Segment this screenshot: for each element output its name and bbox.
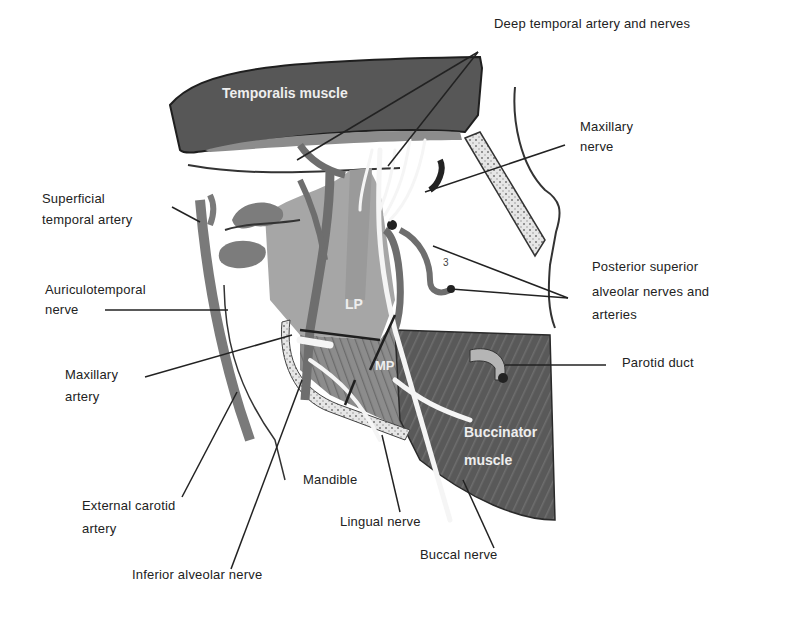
posterior-superior-label-line1: Posterior superior [592,257,698,277]
lateral-pterygoid-label: LP [345,293,363,315]
buccinator-label-line1: Buccinator [464,421,537,443]
anatomy-diagram: Temporalis muscle LP MP Buccinator muscl… [0,0,808,619]
maxillary-nerve-label-line1: Maxillary [580,117,633,137]
medial-pterygoid-label: MP [375,355,395,377]
buccinator-label-line2: muscle [464,449,512,471]
superficial-temporal-label-line2: temporal artery [42,210,132,230]
maxillary-nerve-label-line2: nerve [580,137,614,157]
external-carotid-label-line1: External carotid [82,496,176,516]
mandible-label: Mandible [303,470,357,490]
temporalis-muscle-label: Temporalis muscle [222,82,348,104]
posterior-superior-label-line3: arteries [592,305,637,325]
posterior-superior-label-line2: alveolar nerves and [592,282,709,302]
auriculotemporal-label-line2: nerve [45,300,79,320]
superficial-temporal-label-line1: Superficial [42,189,105,209]
inferior-alveolar-label: Inferior alveolar nerve [132,565,262,585]
maxillary-artery-label-line2: artery [65,387,99,407]
lingual-nerve-label: Lingual nerve [340,512,421,532]
maxillary-artery-label-line1: Maxillary [65,365,118,385]
external-carotid-label-line2: artery [82,519,116,539]
number-3-label: 3 [443,253,449,273]
parotid-duct-label: Parotid duct [622,353,694,373]
buccal-nerve-label: Buccal nerve [420,545,498,565]
deep-temporal-label: Deep temporal artery and nerves [494,14,690,34]
auriculotemporal-label-line1: Auriculotemporal [45,280,146,300]
